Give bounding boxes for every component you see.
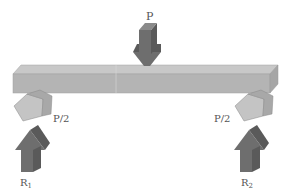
left-reaction-subscript: 1 xyxy=(28,182,32,190)
beam-top-face xyxy=(13,65,278,74)
right-pentagon xyxy=(235,94,264,121)
beam xyxy=(13,65,278,93)
label-applied-load: P xyxy=(146,10,154,23)
right-support xyxy=(234,90,273,172)
left-pentagon xyxy=(14,94,43,121)
load-arrow-shaft xyxy=(139,30,151,54)
left-reaction-arrow-shaft-side xyxy=(33,146,41,172)
label-right-reaction: R2 xyxy=(241,177,253,190)
load-arrow-down xyxy=(133,23,161,66)
right-reaction-arrow-shaft-side xyxy=(252,146,260,172)
label-right-share: P/2 xyxy=(214,113,230,124)
left-reaction-arrow-shaft xyxy=(21,150,33,172)
beam-diagram: P P/2 R1 P/2 R2 xyxy=(0,0,287,196)
load-arrow-head xyxy=(133,52,161,66)
right-reaction-arrow-shaft xyxy=(240,150,252,172)
left-support xyxy=(14,90,52,172)
beam-front-face xyxy=(13,74,270,93)
label-left-share: P/2 xyxy=(53,113,69,124)
label-left-reaction: R1 xyxy=(20,177,32,190)
right-reaction-subscript: 2 xyxy=(249,182,253,190)
